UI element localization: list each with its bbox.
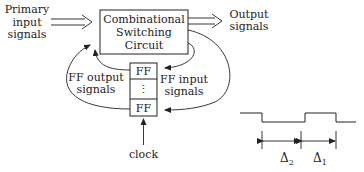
timing-dimensions xyxy=(262,131,336,149)
svg-text:Primary: Primary xyxy=(5,3,50,16)
ff-output-label: FF output signals xyxy=(68,71,124,96)
output-signals-label: Output signals xyxy=(229,8,269,33)
ff-cell-top: FF xyxy=(136,65,152,78)
svg-text:Switching: Switching xyxy=(116,26,172,39)
primary-input-arrow xyxy=(51,15,92,29)
svg-text:signals: signals xyxy=(76,83,115,96)
combinational-circuit-box: Combinational Switching Circuit xyxy=(100,10,188,54)
svg-text:signals: signals xyxy=(164,85,203,98)
svg-text:Δ2: Δ2 xyxy=(280,151,294,167)
svg-text:Combinational: Combinational xyxy=(103,13,185,26)
clock-label: clock xyxy=(129,148,158,161)
flip-flop-stack: FF ⋮ FF xyxy=(130,63,157,116)
svg-text:Δ1: Δ1 xyxy=(313,151,327,167)
svg-text:signals: signals xyxy=(7,28,46,41)
ff-cell-bottom: FF xyxy=(136,102,152,115)
primary-input-label: Primary input signals xyxy=(5,3,50,41)
clock-waveform xyxy=(240,113,356,122)
delta-1-label: Δ1 xyxy=(313,151,327,167)
svg-text:signals: signals xyxy=(229,20,268,33)
ff-cell-dots: ⋮ xyxy=(138,83,149,96)
svg-text:Circuit: Circuit xyxy=(125,39,164,52)
output-arrow xyxy=(188,14,222,28)
delta-2-label: Δ2 xyxy=(280,151,294,167)
sequential-circuit-diagram: Primary input signals Combinational Swit… xyxy=(0,0,364,172)
ff-input-label: FF input signals xyxy=(160,73,208,98)
